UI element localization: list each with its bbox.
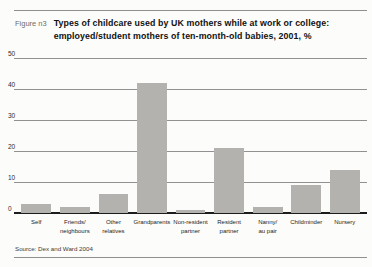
bar-grandparents bbox=[137, 83, 167, 213]
bars-group bbox=[14, 58, 367, 213]
x-axis-labels: SelfFriends/ neighboursOther relativesGr… bbox=[14, 218, 367, 237]
bar-nursery bbox=[330, 170, 360, 213]
x-tick-label-grandparents: Grandparents bbox=[133, 218, 172, 237]
bottom-divider bbox=[14, 257, 367, 258]
source-note: Source: Dex and Ward 2004 bbox=[15, 245, 93, 252]
bar-other-relatives bbox=[99, 194, 129, 213]
x-tick-label-self: Self bbox=[17, 218, 56, 237]
bar-non-resident-partner bbox=[176, 210, 206, 213]
bar-slot-nursery bbox=[326, 58, 365, 213]
y-tick-label-50: 50 bbox=[8, 50, 24, 57]
bar-slot-friends-neighbours bbox=[56, 58, 95, 213]
figure-header: Figure n3 Types of childcare used by UK … bbox=[15, 17, 366, 43]
bar-childminder bbox=[291, 185, 321, 213]
bar-self bbox=[21, 204, 51, 213]
figure-page: Figure n3 Types of childcare used by UK … bbox=[0, 0, 372, 267]
x-tick-label-childminder: Childminder bbox=[287, 218, 326, 237]
bar-slot-self bbox=[17, 58, 56, 213]
bar-slot-grandparents bbox=[133, 58, 172, 213]
bar-slot-resident-partner bbox=[210, 58, 249, 213]
bar-slot-nanny-au-pair bbox=[248, 58, 287, 213]
bar-nanny-au-pair bbox=[253, 207, 283, 213]
bar-chart: 50403020100 SelfFriends/ neighboursOther… bbox=[14, 58, 367, 213]
figure-title: Types of childcare used by UK mothers wh… bbox=[54, 17, 366, 43]
x-tick-label-non-resident-partner: Non-resident partner bbox=[171, 218, 210, 237]
bar-slot-other-relatives bbox=[94, 58, 133, 213]
x-tick-label-other-relatives: Other relatives bbox=[94, 218, 133, 237]
x-tick-label-nursery: Nursery bbox=[326, 218, 365, 237]
x-tick-label-nanny-au-pair: Nanny/ au pair bbox=[248, 218, 287, 237]
figure-label: Figure n3 bbox=[15, 17, 47, 43]
x-tick-label-resident-partner: Resident partner bbox=[210, 218, 249, 237]
bar-slot-childminder bbox=[287, 58, 326, 213]
top-divider bbox=[14, 10, 367, 11]
plot-area: 50403020100 bbox=[14, 58, 367, 213]
bar-friends-neighbours bbox=[60, 207, 90, 213]
bar-resident-partner bbox=[214, 148, 244, 213]
x-tick-label-friends-neighbours: Friends/ neighbours bbox=[56, 218, 95, 237]
bar-slot-non-resident-partner bbox=[171, 58, 210, 213]
